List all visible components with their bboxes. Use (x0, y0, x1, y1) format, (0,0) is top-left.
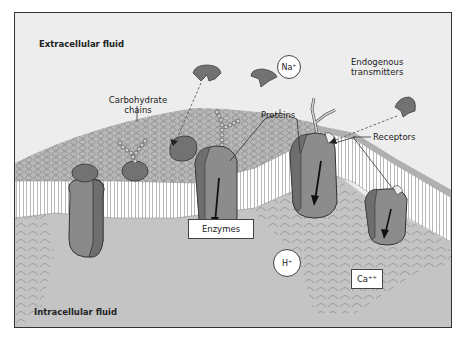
intracellular-fluid-label: Intracellular fluid (34, 307, 117, 317)
extracellular-fluid-label: Extracellular fluid (39, 39, 124, 49)
carbohydrate-chains-label: Carbohydrate chains (103, 95, 173, 115)
hydrogen-ion: H⁺ (273, 249, 301, 277)
calcium-ion-box: Ca⁺⁺ (351, 269, 383, 289)
transmitter-molecule (395, 97, 415, 117)
enzymes-label-box: Enzymes (188, 219, 254, 239)
endogenous-transmitters-label: Endogenous transmitters (351, 57, 403, 77)
receptors-label: Receptors (373, 132, 416, 142)
sodium-ion: Na⁺ (277, 55, 301, 79)
diagram-frame: Extracellular fluid Intracellular fluid … (14, 12, 452, 328)
surface-protein (72, 164, 98, 182)
receptor-site-protein (170, 136, 197, 161)
transmitter-molecule (193, 65, 221, 81)
receptor-protein (290, 133, 337, 218)
transmitter-molecule (251, 69, 277, 87)
channel-protein (69, 179, 104, 257)
proteins-label: Proteins (261, 110, 295, 120)
surface-protein (122, 161, 148, 181)
receptor-protein (365, 186, 407, 245)
